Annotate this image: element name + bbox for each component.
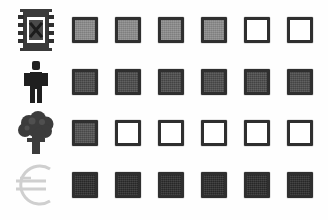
- cell-group: [72, 57, 328, 107]
- cell-fill: [118, 123, 138, 143]
- rating-cell[interactable]: [244, 120, 270, 146]
- cell-fill: [75, 175, 95, 195]
- rating-cell[interactable]: [201, 172, 227, 198]
- rating-cell[interactable]: [244, 69, 270, 95]
- rating-cell[interactable]: [158, 69, 184, 95]
- cell-fill: [118, 20, 138, 40]
- row-euro: [0, 160, 328, 210]
- cell-fill: [247, 72, 267, 92]
- euro-currency-icon: [0, 160, 72, 210]
- cell-group: [72, 160, 328, 210]
- person-icon: [0, 57, 72, 107]
- rating-cell[interactable]: [158, 172, 184, 198]
- cell-fill: [161, 72, 181, 92]
- cell-group: [72, 108, 328, 158]
- rating-cell[interactable]: [287, 17, 313, 43]
- rating-cell[interactable]: [158, 120, 184, 146]
- rating-cell[interactable]: [287, 69, 313, 95]
- cell-fill: [290, 123, 310, 143]
- cell-fill: [204, 175, 224, 195]
- cell-fill: [290, 175, 310, 195]
- cell-fill: [204, 20, 224, 40]
- rating-cell[interactable]: [158, 17, 184, 43]
- cell-fill: [75, 123, 95, 143]
- film-strip-icon: [0, 5, 72, 55]
- cell-fill: [290, 20, 310, 40]
- rating-cell[interactable]: [115, 69, 141, 95]
- rating-cell[interactable]: [244, 172, 270, 198]
- rating-cell[interactable]: [72, 120, 98, 146]
- cell-fill: [204, 72, 224, 92]
- cell-fill: [247, 175, 267, 195]
- rating-cell[interactable]: [201, 120, 227, 146]
- cell-fill: [161, 175, 181, 195]
- rating-cell[interactable]: [201, 17, 227, 43]
- rating-cell[interactable]: [287, 172, 313, 198]
- tree-icon: [0, 108, 72, 158]
- cell-fill: [204, 123, 224, 143]
- rating-cell[interactable]: [72, 17, 98, 43]
- row-tree: [0, 108, 328, 158]
- rating-cell[interactable]: [72, 69, 98, 95]
- cell-fill: [247, 123, 267, 143]
- rating-cell[interactable]: [287, 120, 313, 146]
- rating-cell[interactable]: [115, 17, 141, 43]
- cell-fill: [161, 20, 181, 40]
- cell-fill: [75, 72, 95, 92]
- rating-cell[interactable]: [115, 172, 141, 198]
- rating-cell[interactable]: [244, 17, 270, 43]
- cell-fill: [247, 20, 267, 40]
- row-person: [0, 57, 328, 107]
- cell-fill: [118, 72, 138, 92]
- rating-cell[interactable]: [201, 69, 227, 95]
- cell-fill: [290, 72, 310, 92]
- rating-cell[interactable]: [115, 120, 141, 146]
- cell-group: [72, 5, 328, 55]
- cell-fill: [75, 20, 95, 40]
- rating-matrix: [0, 0, 328, 220]
- cell-fill: [161, 123, 181, 143]
- rating-cell[interactable]: [72, 172, 98, 198]
- row-film: [0, 5, 328, 55]
- cell-fill: [118, 175, 138, 195]
